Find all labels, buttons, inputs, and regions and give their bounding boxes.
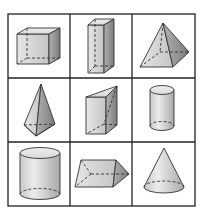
triangular-prism-horizontal-shape <box>75 160 129 187</box>
square-pyramid-shape <box>140 23 189 67</box>
triangular-prism-upright-shape <box>86 86 117 134</box>
triangular-pyramid-shape <box>24 84 55 136</box>
shapes-grid <box>0 0 202 215</box>
rectangular-prism-shape <box>88 19 114 73</box>
cylinder-narrow-shape <box>150 86 174 131</box>
cone-shape <box>144 148 184 193</box>
cylinder-wide-shape <box>20 148 60 200</box>
cube-shape <box>17 28 60 64</box>
